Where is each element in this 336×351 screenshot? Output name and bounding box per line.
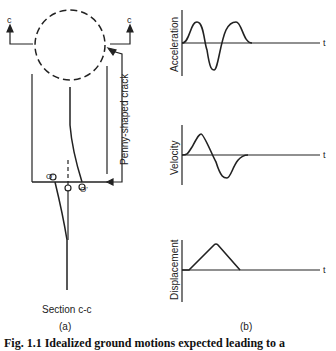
section-label: Section c-c (42, 304, 91, 315)
section-marker-left-label: c (7, 15, 12, 25)
point-o-left: O' (46, 172, 54, 181)
panel-b (182, 10, 320, 302)
section-marker-right-label: c (127, 15, 132, 25)
acceleration-label: Acceleration (169, 17, 180, 72)
velocity-label: Velocity (169, 141, 180, 175)
velocity-curve (182, 134, 248, 178)
lower-deformed-curve (55, 182, 67, 290)
panel-b-label: (b) (240, 321, 252, 332)
displacement-label: Displacement (169, 239, 180, 300)
crack-label: Penny-shaped crack (119, 73, 130, 165)
upper-deformed-curve (70, 87, 82, 182)
panel-a (7, 10, 133, 290)
velocity-t-label: t (323, 150, 326, 160)
crack-circle (35, 10, 105, 80)
figure-caption: Fig. 1.1 Idealized ground motions expect… (4, 336, 336, 351)
acceleration-t-label: t (323, 38, 326, 48)
acceleration-curve (182, 22, 252, 70)
displacement-curve (182, 244, 240, 270)
point-o-right: O' (80, 185, 88, 194)
panel-a-label: (a) (59, 321, 71, 332)
displacement-t-label: t (323, 265, 326, 275)
